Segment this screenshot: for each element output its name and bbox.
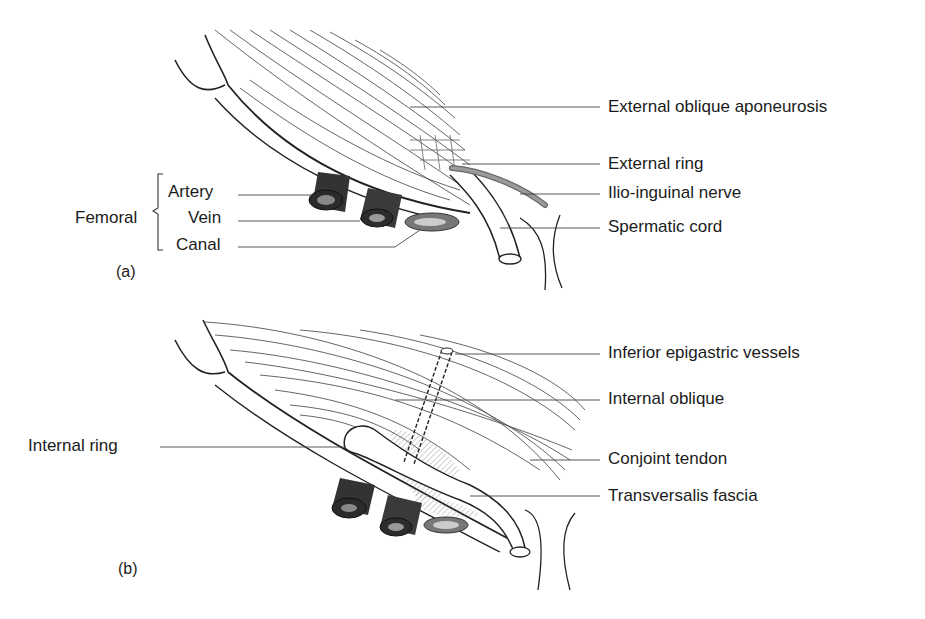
label-femoral: Femoral <box>75 208 137 228</box>
panel-b-leader-lines <box>160 354 600 496</box>
label-internal-ring: Internal ring <box>28 436 118 456</box>
panel-b-tag: (b) <box>118 560 138 578</box>
label-vein: Vein <box>188 208 221 228</box>
label-transversalis-fascia: Transversalis fascia <box>608 486 758 506</box>
label-conjoint-tendon: Conjoint tendon <box>608 449 727 469</box>
femoral-canal-shape <box>405 213 459 231</box>
label-ilio-inguinal-nerve: Ilio-inguinal nerve <box>608 183 741 203</box>
label-canal: Canal <box>176 235 220 255</box>
label-artery: Artery <box>168 182 213 202</box>
femoral-vein-shape <box>360 188 402 228</box>
label-internal-oblique: Internal oblique <box>608 389 724 409</box>
femoral-bracket <box>153 174 163 250</box>
panel-a-tag: (a) <box>116 263 136 281</box>
femoral-artery-shape <box>309 172 350 212</box>
label-inferior-epigastric-vessels: Inferior epigastric vessels <box>608 343 800 363</box>
label-external-oblique-aponeurosis: External oblique aponeurosis <box>608 97 827 117</box>
label-external-ring: External ring <box>608 154 703 174</box>
label-spermatic-cord: Spermatic cord <box>608 217 722 237</box>
anatomy-illustration <box>0 0 925 619</box>
panel-b-drawing <box>160 320 600 590</box>
